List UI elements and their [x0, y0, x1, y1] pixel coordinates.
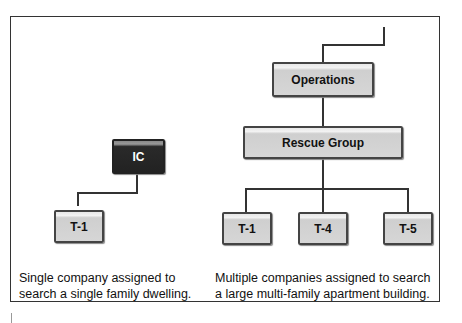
left-caption: Single company assigned to search a sing…	[19, 270, 191, 302]
node-label: T-5	[399, 222, 416, 236]
node-label: IC	[133, 150, 145, 164]
connector-line	[407, 188, 409, 213]
node-t1: T-1	[222, 212, 272, 245]
caption-line: a large multi-family apartment building.	[215, 286, 430, 302]
diagram-frame	[10, 16, 440, 302]
node-ic: IC	[112, 139, 165, 174]
connector-line	[136, 173, 138, 193]
node-t4: T-4	[298, 212, 348, 245]
connector-line	[322, 190, 324, 213]
node-t5: T-5	[383, 212, 433, 245]
node-t1-left: T-1	[54, 210, 104, 243]
node-label: Rescue Group	[282, 136, 364, 150]
connector-line	[245, 188, 408, 190]
connector-line	[322, 95, 324, 127]
node-rescue-group: Rescue Group	[243, 126, 403, 159]
connector-line	[77, 192, 79, 206]
connector-line	[77, 192, 138, 194]
caption-line: search a single family dwelling.	[19, 286, 191, 302]
node-label: T-1	[238, 222, 255, 236]
right-caption: Multiple companies assigned to search a …	[215, 270, 430, 302]
page-margin-mark	[11, 313, 12, 323]
node-label: T-1	[70, 220, 87, 234]
node-operations: Operations	[272, 62, 374, 97]
node-label: Operations	[291, 73, 354, 87]
connector-line	[322, 157, 324, 188]
connector-line	[245, 188, 247, 213]
caption-line: Multiple companies assigned to search	[215, 270, 430, 286]
connector-line	[322, 44, 324, 63]
node-label: T-4	[314, 222, 331, 236]
connector-line	[322, 44, 385, 46]
caption-line: Single company assigned to	[19, 270, 191, 286]
